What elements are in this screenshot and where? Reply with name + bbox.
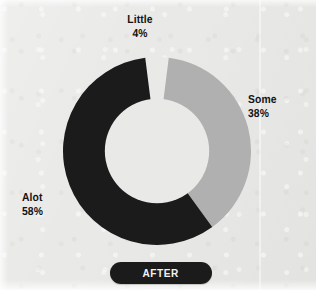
slice-label-alot-name: Alot — [22, 192, 42, 204]
slice-label-some-value: 38% — [248, 108, 304, 122]
chart-figure: Little 4% Some 38% Alot 58% AFTER — [0, 0, 316, 290]
slice-label-little: Little 4% — [111, 14, 169, 41]
chart-caption-label: AFTER — [143, 267, 179, 279]
chart-caption-pill: AFTER — [110, 262, 212, 284]
donut-hole — [105, 99, 209, 203]
page-fold-line — [259, 0, 261, 290]
slice-label-little-value: 4% — [111, 28, 169, 42]
page-edge-shading-top — [0, 0, 316, 7]
slice-label-alot-value: 58% — [22, 206, 78, 220]
slice-label-some-name: Some — [248, 94, 277, 106]
donut-chart — [63, 57, 251, 245]
slice-label-alot: Alot 58% — [22, 192, 78, 219]
slice-label-some: Some 38% — [248, 94, 304, 121]
slice-label-little-name: Little — [127, 14, 152, 26]
page-edge-shading-left — [0, 0, 8, 290]
